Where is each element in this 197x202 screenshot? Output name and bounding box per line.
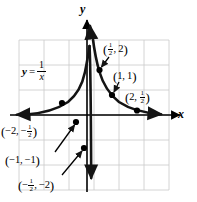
data-point-neghalf-neg2 — [81, 145, 87, 151]
data-point-neg1-neg1 — [73, 119, 79, 125]
paren-close: ) — [123, 42, 127, 57]
data-point-2-half — [134, 107, 140, 113]
point-label-neg1-neg1: (−1, −1) — [5, 154, 40, 167]
paren-open: ( — [125, 90, 129, 105]
axis-label-x: x — [178, 108, 184, 120]
paren-close: ) — [50, 178, 54, 193]
fraction-denominator: 2 — [108, 50, 113, 57]
comma: , — [113, 43, 115, 54]
leader-neghalf-neg2 — [62, 151, 82, 175]
paren-close: ) — [36, 153, 40, 168]
graph-canvas — [0, 0, 197, 202]
paren-close: ) — [132, 69, 136, 84]
point-y-value: 1 — [31, 154, 36, 165]
leader-neg1-neg1 — [55, 125, 75, 152]
minus-sign: − — [22, 179, 28, 190]
equation-lhs: y — [22, 65, 27, 77]
minus-sign: − — [21, 125, 27, 136]
paren-open: ( — [5, 153, 9, 168]
paren-open: ( — [18, 178, 22, 193]
comma: , — [16, 125, 18, 136]
equation-operator: = — [29, 65, 35, 77]
equation-numerator: 1 — [37, 60, 46, 72]
paren-open: ( — [1, 124, 5, 139]
fraction-one-half: 12 — [28, 178, 33, 193]
data-point-neg2-neghalf — [59, 100, 65, 106]
fraction-one-half: 12 — [108, 42, 113, 57]
comma: , — [134, 91, 136, 102]
point-label-neghalf-neg2: (−12, −2) — [18, 178, 54, 193]
comma: , — [34, 179, 36, 190]
data-point-1-1 — [109, 92, 115, 98]
figure-container: x y y=1x (12, 2) (1, 1) (2, 12) (−2, −12… — [0, 0, 197, 202]
comma: , — [20, 154, 22, 165]
data-point-half-2 — [96, 67, 102, 73]
paren-close: ) — [145, 90, 149, 105]
paren-open: ( — [113, 69, 117, 84]
fraction-denominator: 2 — [27, 132, 32, 139]
fraction-one-half: 12 — [27, 124, 32, 139]
leader-half-2 — [102, 57, 110, 67]
axis-label-y: y — [80, 3, 85, 15]
fraction-denominator: 2 — [28, 186, 33, 193]
point-label-neg2-neghalf: (−2, −12) — [1, 124, 37, 139]
paren-open: ( — [103, 42, 107, 57]
paren-close: ) — [33, 124, 37, 139]
equation-fraction: 1x — [37, 60, 46, 82]
point-label-half-2: (12, 2) — [103, 42, 128, 57]
comma: , — [122, 70, 124, 81]
point-label-1-1: (1, 1) — [113, 70, 136, 83]
equation-label: y=1x — [22, 60, 46, 82]
point-label-2-half: (2, 12) — [125, 90, 150, 105]
equation-denominator: x — [37, 72, 46, 83]
